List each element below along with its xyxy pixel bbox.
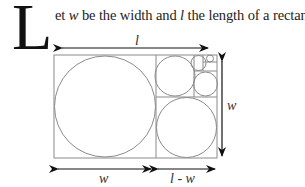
length-label: l xyxy=(135,33,139,48)
bottom-w-label: w xyxy=(99,171,109,186)
inscribed-circles xyxy=(55,55,218,158)
dimension-arrows xyxy=(58,48,222,169)
rectangle-grid xyxy=(54,55,217,158)
golden-rectangle-diagram: l w w l - w xyxy=(0,0,305,187)
bottom-l-minus-w-label: l - w xyxy=(170,171,196,186)
width-label: w xyxy=(227,98,237,113)
